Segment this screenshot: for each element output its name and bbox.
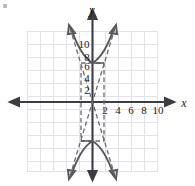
x-axis-arrow-right [165, 98, 174, 106]
graph-figure: 10 8 6 4 2 2 4 6 8 10 y x [0, 0, 195, 186]
x-tick-8: 8 [141, 104, 147, 116]
y-tick-10: 10 [79, 38, 91, 50]
y-axis-tick-labels: 10 8 6 4 2 [79, 38, 91, 96]
coordinate-plane-svg: 10 8 6 4 2 2 4 6 8 10 y x [0, 0, 195, 186]
y-axis-label: y [88, 3, 95, 17]
upper-left-arrow [68, 25, 75, 34]
lower-left-arrow [68, 170, 75, 179]
axes [10, 10, 174, 180]
x-axis-label: x [180, 96, 187, 110]
x-tick-6: 6 [128, 104, 134, 116]
y-tick-6: 6 [84, 60, 90, 72]
x-tick-10: 10 [153, 104, 165, 116]
x-axis-arrow-left [10, 98, 19, 106]
lower-right-arrow [110, 170, 117, 179]
x-tick-4: 4 [115, 104, 121, 116]
x-tick-2: 2 [102, 104, 108, 116]
y-tick-4: 4 [84, 72, 90, 84]
y-axis-arrow-down [89, 171, 97, 180]
y-tick-2: 2 [84, 84, 90, 96]
upper-right-arrow [110, 25, 117, 34]
